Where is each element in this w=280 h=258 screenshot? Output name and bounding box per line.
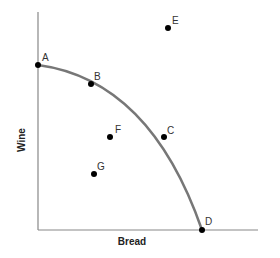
ppf-diagram: A B C D E F G Bread Wine (0, 0, 280, 258)
point-e: E (165, 15, 179, 31)
svg-text:C: C (167, 125, 174, 136)
svg-text:E: E (172, 15, 179, 26)
svg-text:A: A (42, 52, 49, 63)
svg-text:B: B (94, 71, 101, 82)
point-f: F (107, 124, 121, 140)
svg-text:D: D (205, 216, 212, 227)
point-c: C (161, 125, 174, 140)
ppf-curve (38, 65, 202, 230)
y-axis-label: Wine (16, 128, 27, 152)
point-g: G (91, 161, 105, 177)
svg-text:G: G (97, 161, 105, 172)
svg-text:F: F (115, 124, 121, 135)
x-axis-label: Bread (118, 236, 146, 247)
